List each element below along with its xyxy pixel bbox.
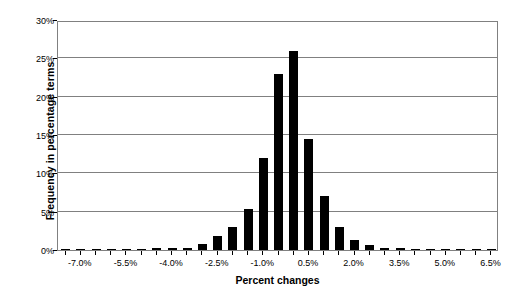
x-axis-tick (278, 251, 279, 255)
x-axis-tick (384, 251, 385, 255)
x-axis-tick (217, 251, 218, 255)
bar (350, 240, 359, 250)
x-axis-tick-label: 5.0% (435, 258, 456, 268)
bar (426, 249, 435, 250)
x-axis-tick (445, 251, 446, 255)
x-axis-tick (171, 251, 172, 255)
y-axis-tick-label: 0% (18, 246, 54, 256)
x-axis-tick (141, 251, 142, 255)
x-axis-tick (308, 251, 309, 255)
bar (168, 248, 177, 250)
x-axis-tick (80, 251, 81, 255)
bar (289, 51, 298, 250)
x-axis-tick-label: 3.5% (389, 258, 410, 268)
bar (122, 249, 131, 250)
x-axis-tick-label: -1.0% (251, 258, 275, 268)
y-axis-tick-label: 10% (18, 169, 54, 179)
x-axis-tick (369, 251, 370, 255)
bar (320, 196, 329, 250)
bar (487, 249, 496, 250)
x-axis-tick (354, 251, 355, 255)
x-axis-tick (110, 251, 111, 255)
bar (137, 249, 146, 250)
bar (152, 248, 161, 250)
x-axis-tick (475, 251, 476, 255)
bar (456, 249, 465, 250)
bar (380, 248, 389, 250)
bar (92, 249, 101, 250)
bar (396, 248, 405, 250)
x-axis-tick (201, 251, 202, 255)
y-axis-tick-label: 25% (18, 54, 54, 64)
bar (198, 244, 207, 250)
y-axis-tick-label: 15% (18, 131, 54, 141)
x-axis-tick (414, 251, 415, 255)
x-axis-tick (156, 251, 157, 255)
x-axis-tick (65, 251, 66, 255)
x-axis-tick (490, 251, 491, 255)
bar (411, 249, 420, 250)
x-axis-tick (232, 251, 233, 255)
x-axis-tick-label: 0.5% (298, 258, 319, 268)
bar (259, 158, 268, 250)
x-axis-tick-label: -2.5% (205, 258, 229, 268)
x-axis-tick (247, 251, 248, 255)
bar (244, 209, 253, 250)
x-axis-tick (338, 251, 339, 255)
x-axis-tick (262, 251, 263, 255)
x-axis-title: Percent changes (57, 274, 498, 286)
bar (472, 249, 481, 250)
x-axis-tick (430, 251, 431, 255)
x-axis-tick-label: -5.5% (114, 258, 138, 268)
y-axis-tick-label: 20% (18, 93, 54, 103)
x-axis-tick (125, 251, 126, 255)
bar (441, 249, 450, 250)
x-axis-ticks (57, 251, 498, 256)
bar (365, 245, 374, 250)
bar (76, 249, 85, 250)
x-axis-tick (186, 251, 187, 255)
y-axis-tick-label: 30% (18, 16, 54, 26)
bar (304, 139, 313, 250)
bar (107, 249, 116, 250)
bar (228, 227, 237, 250)
bars-layer (58, 22, 497, 250)
bar (274, 74, 283, 250)
bar (61, 249, 70, 250)
x-axis-tick (399, 251, 400, 255)
x-axis-tick (95, 251, 96, 255)
x-axis-tick-labels: -7.0%-5.5%-4.0%-2.5%-1.0%0.5%2.0%3.5%5.0… (0, 258, 515, 274)
x-axis-tick (460, 251, 461, 255)
histogram-chart: Frequency in percentage terms 0%5%10%15%… (0, 0, 515, 295)
bar (335, 227, 344, 250)
x-axis-tick-label: 6.5% (480, 258, 501, 268)
x-axis-tick (293, 251, 294, 255)
bar (183, 248, 192, 250)
y-axis-tick-label: 5% (18, 208, 54, 218)
x-axis-tick (323, 251, 324, 255)
x-axis-tick-label: -4.0% (159, 258, 183, 268)
x-axis-tick-label: -7.0% (68, 258, 92, 268)
plot-area (57, 21, 498, 251)
bar (213, 236, 222, 250)
x-axis-tick-label: 2.0% (343, 258, 364, 268)
y-axis-tick-labels: 0%5%10%15%20%25%30% (18, 0, 54, 295)
